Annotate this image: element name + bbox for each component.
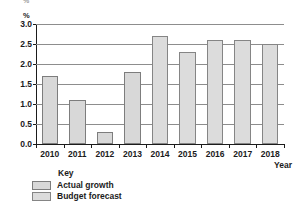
x-tick-mark <box>256 144 257 148</box>
bar-2016 <box>207 40 224 144</box>
legend-item-actual: Actual growth <box>32 180 182 190</box>
legend-items: Actual growthBudget forecast <box>32 180 182 201</box>
x-tick-mark <box>146 144 147 148</box>
x-tick-label-2012: 2012 <box>95 149 114 159</box>
x-tick-label-2018: 2018 <box>261 149 280 159</box>
x-tick-mark <box>91 144 92 148</box>
legend-title: Key <box>58 168 182 178</box>
x-tick-mark <box>64 144 65 148</box>
y-tick-label: 2.0 <box>20 59 32 69</box>
legend-swatch-forecast <box>32 192 51 201</box>
bar-2017 <box>234 40 251 144</box>
x-tick-label-2014: 2014 <box>151 149 170 159</box>
x-axis: 201020112012201320142015201620172018 <box>36 144 284 162</box>
y-tick-label: 1.0 <box>20 99 32 109</box>
bar-2013 <box>124 72 141 144</box>
y-tick-label: 1.5 <box>20 79 32 89</box>
bar-2014 <box>152 36 169 144</box>
x-tick-mark <box>229 144 230 148</box>
plot-area: 0.00.51.01.52.02.53.0 <box>36 24 284 144</box>
x-tick-label-2011: 2011 <box>68 149 86 159</box>
legend: Key Actual growthBudget forecast <box>32 168 182 202</box>
x-tick-mark <box>174 144 175 148</box>
x-tick-label-2015: 2015 <box>178 149 197 159</box>
x-tick-mark <box>36 144 37 148</box>
x-tick-mark <box>201 144 202 148</box>
y-tick-label: 0.0 <box>20 139 32 149</box>
legend-label-forecast: Budget forecast <box>57 191 122 201</box>
y-tick-label: 3.0 <box>20 19 32 29</box>
x-tick-label-2010: 2010 <box>40 149 59 159</box>
bar-2011 <box>69 100 86 144</box>
y-tick-label: 2.5 <box>20 39 32 49</box>
bar-chart: % % 0.00.51.01.52.02.53.0 20102011201220… <box>0 0 298 216</box>
x-tick-label-2013: 2013 <box>123 149 142 159</box>
x-tick-mark <box>284 144 285 148</box>
legend-label-actual: Actual growth <box>57 180 114 190</box>
top-percent-artifact: % <box>23 0 29 4</box>
legend-item-forecast: Budget forecast <box>32 191 182 201</box>
bar-2010 <box>42 76 59 144</box>
bar-2012 <box>97 132 114 144</box>
bar-2018 <box>262 44 279 144</box>
y-tick-label: 0.5 <box>20 119 32 129</box>
x-tick-mark <box>119 144 120 148</box>
x-axis-title: Year <box>274 160 292 170</box>
x-tick-label-2016: 2016 <box>206 149 225 159</box>
bar-2015 <box>179 52 196 144</box>
x-tick-label-2017: 2017 <box>233 149 252 159</box>
legend-swatch-actual <box>32 181 51 190</box>
bars-group <box>36 24 284 144</box>
